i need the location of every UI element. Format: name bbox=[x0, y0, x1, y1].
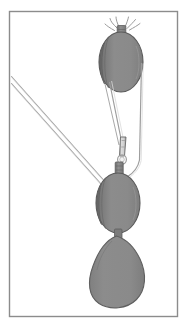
block-and-tackle-drawing bbox=[0, 0, 195, 328]
lower-block bbox=[96, 173, 140, 233]
illustration-figure: Block and tackle with pear-shaped weight bbox=[0, 0, 195, 328]
upper-block bbox=[99, 32, 143, 92]
